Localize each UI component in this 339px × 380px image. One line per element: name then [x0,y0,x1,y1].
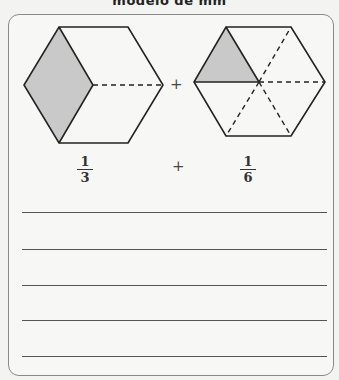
answer-line-5[interactable] [22,356,327,357]
answer-line-3[interactable] [22,285,327,286]
answer-line-4[interactable] [22,320,327,321]
plus-sign-fractions: + [172,157,185,175]
denominator: 3 [75,171,95,184]
fraction-one-sixth: 1 6 [238,155,258,184]
fraction-one-third: 1 3 [75,155,95,184]
answer-line-2[interactable] [22,249,327,250]
hexagon-sixths [194,27,325,136]
numerator: 1 [238,155,258,168]
denominator: 6 [238,171,258,184]
hexagon-thirds [24,27,163,143]
plus-sign-figures: + [170,75,183,93]
fraction-models-figure [0,0,339,380]
answer-line-1[interactable] [22,212,327,213]
numerator: 1 [75,155,95,168]
